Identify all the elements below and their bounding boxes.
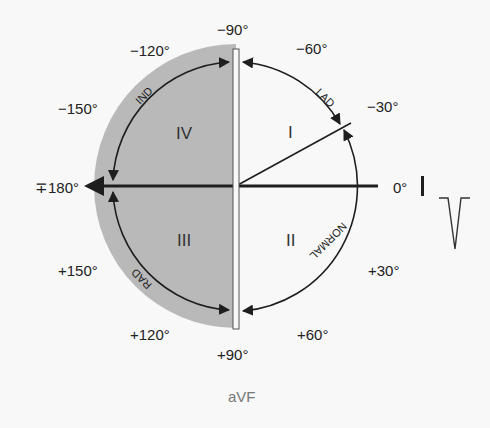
qrs-waveform-icon — [439, 198, 470, 249]
quadrant-label-ii: II — [286, 232, 295, 249]
angle-label-minus150: −150° — [58, 101, 98, 116]
minus30-line — [236, 123, 351, 186]
angle-label-plus120: +120° — [130, 327, 170, 342]
angle-label-180: ∓180° — [35, 180, 79, 195]
arrow-left-icon — [84, 176, 104, 196]
vertical-axis-bar — [233, 49, 239, 329]
angle-label-plus150: +150° — [58, 263, 98, 278]
lad-label: LAD — [314, 86, 338, 110]
axis-diagram: LAD NORMAL RAD IND −90° −60° −30° 0° +30… — [0, 0, 490, 428]
angle-label-plus30: +30° — [368, 263, 399, 278]
normal-label: NORMAL — [308, 220, 350, 262]
angle-label-plus90: +90° — [217, 347, 248, 362]
lead-avf-label: aVF — [228, 389, 256, 404]
angle-label-minus90: −90° — [217, 22, 248, 37]
quadrant-label-iv: IV — [176, 125, 192, 142]
axis-diagram-graphics: LAD NORMAL RAD IND — [0, 0, 490, 428]
angle-label-minus120: −120° — [130, 43, 170, 58]
quadrant-label-iii: III — [177, 232, 191, 249]
angle-label-minus60: −60° — [296, 41, 327, 56]
normal-arc — [243, 130, 357, 311]
angle-label-minus30: −30° — [367, 99, 398, 114]
angle-label-plus60: +60° — [297, 327, 328, 342]
quadrant-label-i: I — [288, 124, 293, 141]
lead-i-bar — [421, 176, 424, 196]
angle-label-0: 0° — [393, 180, 407, 195]
